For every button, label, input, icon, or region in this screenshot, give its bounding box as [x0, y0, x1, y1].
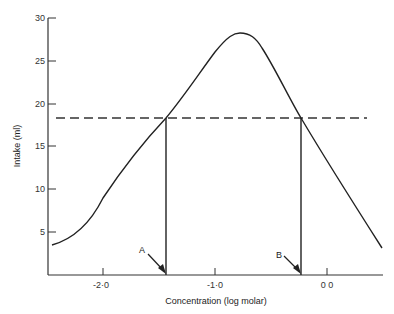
x-tick-label: -1·0 [207, 280, 223, 290]
marker-a-label: A [139, 245, 145, 255]
y-tick-label: 25 [35, 56, 45, 66]
y-ticks [48, 18, 56, 232]
x-tick-label: 0 0 [321, 280, 334, 290]
x-ticks [103, 268, 327, 275]
y-tick-label: 5 [40, 227, 45, 237]
y-tick-label: 20 [35, 99, 45, 109]
y-tick-label: 15 [35, 141, 45, 151]
y-tick-label: 10 [35, 184, 45, 194]
y-axis-label: Intake (ml) [12, 125, 22, 168]
x-tick-label: -2·0 [93, 280, 109, 290]
y-tick-label: 30 [35, 13, 45, 23]
marker-b-arrow-icon [284, 256, 301, 274]
marker-a-arrow-icon [148, 254, 166, 274]
chart: 30 25 20 15 10 5 -2·0 -1·0 0 0 Concentra… [0, 0, 394, 314]
intake-curve [52, 33, 382, 248]
x-axis-label: Concentration (log molar) [165, 296, 267, 306]
marker-b-label: B [276, 250, 282, 260]
